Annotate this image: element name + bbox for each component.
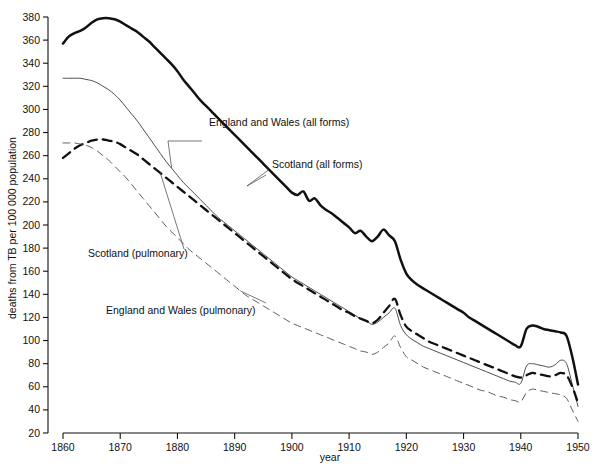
y-tick-label: 380	[22, 11, 40, 23]
series-label-scotland-pulmonary: Scotland (pulmonary)	[88, 247, 188, 259]
y-tick-label: 220	[22, 195, 40, 207]
x-tick-label: 1860	[51, 441, 75, 453]
y-axis-ticks: 2040608010012014016018020022024026028030…	[22, 11, 48, 439]
leader-line-england-and-wales-all-forms	[168, 141, 202, 168]
y-tick-label: 300	[22, 103, 40, 115]
leader-line-scotland-all-forms	[247, 170, 269, 187]
y-tick-label: 100	[22, 334, 40, 346]
x-axis-title: year	[320, 451, 341, 463]
y-tick-label: 60	[28, 380, 40, 392]
y-tick-label: 140	[22, 288, 40, 300]
x-tick-label: 1920	[395, 441, 419, 453]
x-tick-label: 1880	[166, 441, 190, 453]
x-tick-label: 1950	[566, 441, 590, 453]
chart-container: 2040608010012014016018020022024026028030…	[0, 0, 604, 468]
y-tick-label: 80	[28, 357, 40, 369]
x-tick-label: 1930	[452, 441, 476, 453]
axes: 2040608010012014016018020022024026028030…	[22, 11, 589, 453]
y-tick-label: 120	[22, 311, 40, 323]
y-tick-label: 340	[22, 57, 40, 69]
x-axis-ticks: 1860187018801890190019101920193019401950	[51, 433, 590, 453]
y-tick-label: 320	[22, 80, 40, 92]
y-tick-label: 40	[28, 403, 40, 415]
y-tick-label: 280	[22, 126, 40, 138]
series-line-england-and-wales-pulmonary	[63, 143, 578, 422]
series-label-england-and-wales-all-forms: England and Wales (all forms)	[209, 116, 349, 128]
data-series-group	[63, 18, 578, 421]
x-tick-label: 1900	[280, 441, 304, 453]
leader-line-england-and-wales-pulmonary	[240, 291, 266, 303]
series-line-scotland-all-forms	[63, 18, 578, 384]
series-line-scotland-pulmonary	[63, 139, 578, 403]
x-tick-label: 1940	[509, 441, 533, 453]
y-tick-label: 160	[22, 265, 40, 277]
series-annotations: England and Wales (all forms)Scotland (a…	[88, 116, 362, 316]
y-tick-label: 240	[22, 172, 40, 184]
y-tick-label: 180	[22, 242, 40, 254]
series-label-england-and-wales-pulmonary: England and Wales (pulmonary)	[106, 304, 256, 316]
tb-mortality-line-chart: 2040608010012014016018020022024026028030…	[0, 0, 604, 468]
series-label-scotland-all-forms: Scotland (all forms)	[272, 158, 362, 170]
y-tick-label: 20	[28, 427, 40, 439]
y-tick-label: 360	[22, 34, 40, 46]
y-tick-label: 260	[22, 149, 40, 161]
y-tick-label: 200	[22, 219, 40, 231]
x-tick-label: 1890	[223, 441, 247, 453]
y-axis-title: deaths from TB per 100 000 population	[6, 137, 18, 319]
x-tick-label: 1910	[337, 441, 361, 453]
x-tick-label: 1870	[109, 441, 133, 453]
leader-line-scotland-pulmonary	[160, 173, 184, 249]
